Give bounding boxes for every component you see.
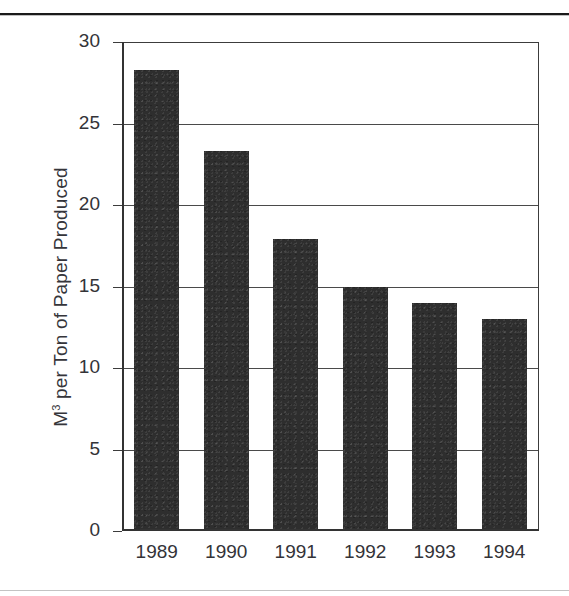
- x-axis-tick-label: 1991: [261, 541, 331, 563]
- bar: [134, 70, 179, 531]
- x-axis-tick-label: 1994: [469, 541, 539, 563]
- y-axis-line: [122, 42, 124, 531]
- gridline: [122, 450, 539, 451]
- y-axis-tick-label: 25: [62, 112, 100, 134]
- bar: [343, 287, 388, 532]
- y-axis-tick-mark: [113, 368, 122, 369]
- page-top-rule: [0, 13, 569, 15]
- y-axis-tick-label: 5: [62, 438, 100, 460]
- bar: [273, 239, 318, 531]
- x-axis-tick-label: 1989: [122, 541, 192, 563]
- gridline: [122, 287, 539, 288]
- x-axis-tick-label: 1992: [330, 541, 400, 563]
- y-axis-tick-mark: [113, 531, 122, 532]
- bar: [204, 151, 249, 531]
- gridline: [122, 205, 539, 206]
- y-axis-tick-label: 10: [62, 356, 100, 378]
- y-axis-tick-mark: [113, 450, 122, 451]
- x-axis-tick-label: 1993: [400, 541, 470, 563]
- bar: [482, 319, 527, 531]
- y-axis-title: M3 per Ton of Paper Produced: [50, 132, 72, 462]
- y-axis-tick-mark: [113, 287, 122, 288]
- x-axis-tick-label: 1990: [191, 541, 261, 563]
- gridline: [122, 124, 539, 125]
- bar: [412, 303, 457, 531]
- y-axis-tick-label: 15: [62, 275, 100, 297]
- plot-area: [122, 42, 539, 531]
- page-bottom-rule: [0, 590, 569, 591]
- y-axis-tick-mark: [113, 124, 122, 125]
- y-axis-tick-mark: [113, 42, 122, 43]
- gridline: [122, 368, 539, 369]
- y-axis-tick-label: 20: [62, 193, 100, 215]
- y-axis-tick-label: 0: [62, 519, 100, 541]
- y-axis-tick-mark: [113, 205, 122, 206]
- y-axis-tick-label: 30: [62, 30, 100, 52]
- bar-chart-figure: M3 per Ton of Paper Produced 05101520253…: [0, 0, 569, 596]
- y-axis-title-base: M: [50, 411, 71, 427]
- y-axis-title-exponent: 3: [50, 404, 62, 410]
- x-axis-line: [122, 529, 539, 531]
